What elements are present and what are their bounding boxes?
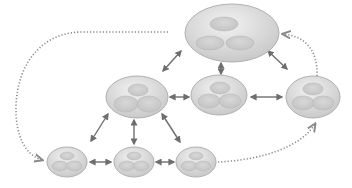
node-top (185, 4, 279, 62)
pod-icon (196, 36, 224, 50)
arrow-top-mid-left (163, 51, 181, 71)
pod-icon (198, 94, 220, 108)
pod-icon (181, 161, 197, 171)
pod-icon (128, 84, 148, 96)
pod-icon (66, 161, 82, 171)
pod-icon (133, 161, 149, 171)
arrow-top-mid-right (268, 51, 287, 69)
node-mid-center (191, 75, 247, 115)
pod-icon (210, 82, 230, 94)
node-bottom-right (176, 147, 216, 177)
node-mid-left (106, 76, 168, 118)
pod-icon (189, 152, 203, 160)
pod-icon (292, 96, 314, 110)
node-mid-right (286, 76, 340, 118)
arrow-mid-left-bottom-right (162, 114, 180, 142)
network-diagram (0, 0, 352, 188)
pod-icon (195, 161, 211, 171)
node-bottom-left (47, 147, 87, 177)
pod-icon (226, 36, 254, 50)
pod-icon (114, 96, 138, 112)
arrow-mid-left-bottom-left (91, 114, 108, 141)
node-bottom-center (114, 147, 154, 177)
dotted-arrow-bottom-right-to-mid-right (218, 124, 315, 162)
pod-icon (60, 152, 74, 160)
diagram-canvas (0, 0, 352, 188)
dotted-arrow-mid-right-to-top (283, 34, 317, 76)
pod-icon (312, 96, 334, 110)
pod-icon (52, 161, 68, 171)
pod-icon (119, 161, 135, 171)
pod-icon (137, 96, 161, 112)
pod-icon (219, 94, 241, 108)
pod-icon (127, 152, 141, 160)
pod-icon (303, 83, 323, 95)
pod-icon (210, 17, 238, 31)
